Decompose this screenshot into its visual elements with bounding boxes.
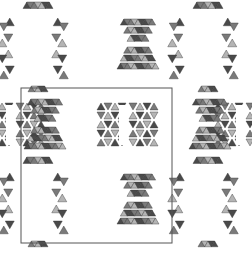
polyhedral-cluster	[97, 103, 158, 146]
polyhedral-cluster	[117, 174, 159, 224]
polyhedral-cluster	[168, 157, 239, 247]
polyhedral-cluster	[0, 2, 68, 92]
polyhedral-cluster	[24, 99, 66, 149]
polyhedral-cluster	[0, 157, 68, 247]
structure-canvas	[0, 0, 252, 253]
crystal-structure-diagram: Polyhedral crystal structure projection …	[0, 0, 252, 253]
polyhedral-cluster	[168, 2, 239, 92]
polyhedral-cluster	[117, 19, 159, 69]
